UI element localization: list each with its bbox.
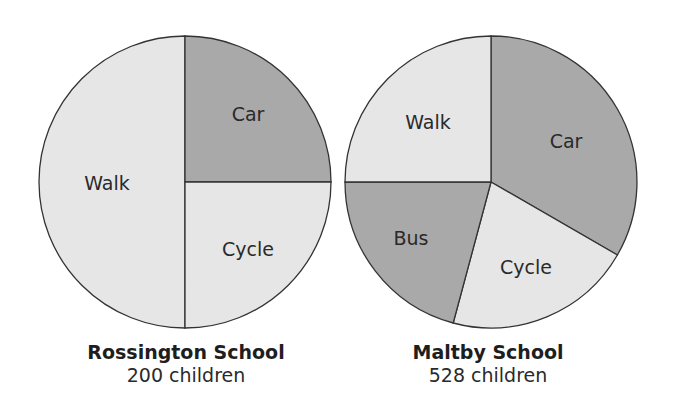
maltby-label-car: Car (550, 130, 583, 152)
maltby-caption: Maltby School 528 children (368, 340, 608, 386)
rossington-count: 200 children (66, 364, 306, 386)
maltby-label-cycle: Cycle (500, 256, 552, 278)
maltby-pie: Walk Car Bus Cycle (345, 36, 637, 328)
rossington-title: Rossington School (66, 340, 306, 364)
maltby-label-bus: Bus (394, 227, 429, 249)
rossington-label-walk: Walk (84, 172, 130, 194)
rossington-caption: Rossington School 200 children (66, 340, 306, 386)
rossington-label-cycle: Cycle (222, 238, 274, 260)
maltby-count: 528 children (368, 364, 608, 386)
maltby-slice-walk (345, 36, 491, 182)
maltby-title: Maltby School (368, 340, 608, 364)
rossington-label-car: Car (232, 103, 265, 125)
rossington-pie: Walk Car Cycle (39, 36, 331, 328)
maltby-label-walk: Walk (405, 111, 451, 133)
